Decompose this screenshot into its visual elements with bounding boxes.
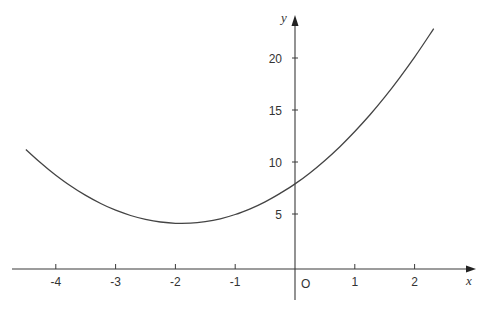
axes [12,15,476,300]
y-axis-label: y [279,10,287,25]
series-line-curve [26,29,434,224]
x-tick-label: -4 [50,275,61,289]
x-tick-label: -2 [170,275,181,289]
x-tick-label: 1 [351,275,358,289]
origin-label: O [301,277,310,291]
y-tick-label: 20 [269,52,283,66]
y-axis-arrowhead [292,15,299,26]
x-axis-arrowhead [466,266,476,273]
y-tick-label: 10 [269,156,283,170]
x-tick-label: -3 [110,275,121,289]
x-axis-label: x [465,273,472,288]
x-tick-label: 2 [411,275,418,289]
x-ticks: -4-3-2-112 [50,264,418,289]
chart: -4-3-2-112 5101520 x y O [0,0,492,310]
y-ticks: 5101520 [269,52,298,222]
y-tick-label: 15 [269,104,283,118]
series-group [26,29,434,224]
x-tick-label: -1 [230,275,241,289]
y-tick-label: 5 [275,208,282,222]
